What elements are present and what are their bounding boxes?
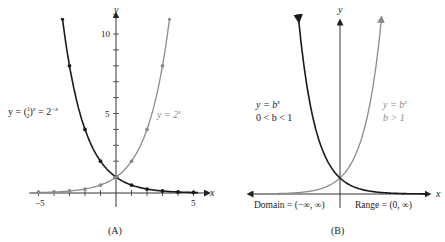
panel-b-dark-curve-label-line2: 0 < b < 1 <box>256 112 292 123</box>
panel-a-y-tick-label-5: 5 <box>105 109 110 119</box>
panel-a-data-point <box>99 159 103 163</box>
panel-a-caption: (A) <box>108 225 122 237</box>
panel-a-x-tick-label-neg5: −5 <box>35 198 45 208</box>
panel-a-data-point <box>161 189 165 193</box>
panel-a-y-axis-label: y <box>113 4 119 15</box>
panel-a-data-point <box>99 183 103 187</box>
panel-a-data-point <box>68 64 72 68</box>
panel-a-x-axis-label: x <box>209 187 215 198</box>
panel-a-data-point <box>68 189 72 193</box>
panel-a-data-point <box>114 175 118 179</box>
panel-b-dark-curve-label-line1: y = bx <box>255 99 280 110</box>
panel-a-curve-half-to-x <box>63 19 199 192</box>
panel-a-data-point <box>130 159 134 163</box>
panel-a-data-point <box>145 127 149 131</box>
panel-a-data-point <box>52 190 56 194</box>
panel-b-range-label: Range = (0, ∞) <box>355 200 412 211</box>
exponential-graphs-figure: y = (12)x = 2−x y = 2x y x −5 5 5 10 (A)… <box>0 0 445 242</box>
panel-a-data-point <box>83 127 87 131</box>
panel-a-data-point <box>145 187 149 191</box>
panel-a-data-point <box>161 64 165 68</box>
panel-b-x-axis-label: x <box>435 188 441 199</box>
panel-a-data-point <box>130 183 134 187</box>
panel-a-data-point <box>83 187 87 191</box>
panel-a-data-point <box>192 191 196 195</box>
panel-a-data-point <box>37 191 41 195</box>
panel-a-x-tick-label-5: 5 <box>191 198 196 208</box>
panel-a-data-point <box>176 190 180 194</box>
panel-b-domain-label: Domain = (−∞, ∞) <box>254 200 325 211</box>
panel-b: y = bx 0 < b < 1 y = bx b > 1 y x Domain… <box>250 4 441 237</box>
panel-b-light-curve-label-line1: y = bx <box>382 99 407 110</box>
panel-b-y-axis-label: y <box>337 4 343 15</box>
panel-b-light-curve-label-line2: b > 1 <box>383 112 405 123</box>
panel-b-caption: (B) <box>331 225 344 237</box>
panel-a-light-curve-label: y = 2x <box>156 109 181 120</box>
panel-a-dark-curve-label: y = (12)x = 2−x <box>8 106 58 119</box>
panel-b-curve-b-less-1 <box>299 19 427 194</box>
panel-a-y-tick-label-10: 10 <box>101 29 111 39</box>
panel-a: y = (12)x = 2−x y = 2x y x −5 5 5 10 (A) <box>8 4 215 237</box>
